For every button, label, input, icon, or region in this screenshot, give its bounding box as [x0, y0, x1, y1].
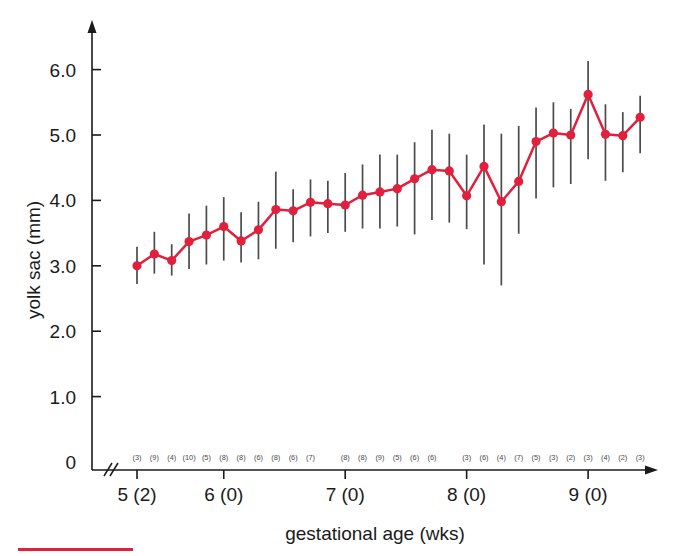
- data-point-marker: [358, 191, 367, 200]
- sample-size-labels-group: (3)(9)(4)(10)(5)(8)(8)(6)(8)(6)(7)(8)(8)…: [132, 453, 644, 462]
- sample-size-label: (7): [306, 453, 315, 462]
- sample-size-label: (2): [618, 453, 627, 462]
- sample-size-label: (9): [375, 453, 384, 462]
- errorbars-group: [137, 61, 640, 285]
- data-point-marker: [618, 131, 627, 140]
- y-tick-label: 5.0: [50, 125, 76, 146]
- data-point-marker: [375, 187, 384, 196]
- data-point-marker: [584, 90, 593, 99]
- sample-size-label: (5): [393, 453, 402, 462]
- sample-size-label: (6): [410, 453, 419, 462]
- x-tick-label: 6 (0): [204, 484, 243, 505]
- sample-size-label: (3): [584, 453, 593, 462]
- x-axis-title: gestational age (wks): [285, 523, 465, 544]
- data-point-marker: [531, 137, 540, 146]
- sample-size-label: (5): [202, 453, 211, 462]
- data-point-marker: [202, 230, 211, 239]
- sample-size-label: (2): [566, 453, 575, 462]
- sample-size-label: (7): [514, 453, 523, 462]
- y-axis-arrow: [88, 20, 97, 33]
- y-tick-label: 6.0: [50, 60, 76, 81]
- data-point-marker: [427, 165, 436, 174]
- data-point-marker: [445, 166, 454, 175]
- sample-size-label: (3): [462, 453, 471, 462]
- data-markers-group: [132, 90, 644, 271]
- sample-size-label: (8): [271, 453, 280, 462]
- data-point-marker: [462, 191, 471, 200]
- sample-size-label: (4): [601, 453, 610, 462]
- data-point-marker: [289, 206, 298, 215]
- data-point-marker: [132, 261, 141, 270]
- sample-size-label: (9): [150, 453, 159, 462]
- data-point-marker: [237, 236, 246, 245]
- sample-size-label: (6): [427, 453, 436, 462]
- data-point-marker: [150, 249, 159, 258]
- yolk-sac-growth-figure: (3)(9)(4)(10)(5)(8)(8)(6)(8)(6)(7)(8)(8)…: [0, 0, 690, 556]
- sample-size-label: (6): [254, 453, 263, 462]
- data-point-marker: [271, 205, 280, 214]
- data-point-marker: [549, 128, 558, 137]
- x-tick-label: 7 (0): [326, 484, 365, 505]
- x-tick-label: 9 (0): [569, 484, 608, 505]
- y-tick-label: 2.0: [50, 321, 76, 342]
- data-point-marker: [306, 198, 315, 207]
- data-point-marker: [601, 130, 610, 139]
- sample-size-label: (8): [358, 453, 367, 462]
- data-point-marker: [410, 174, 419, 183]
- data-point-marker: [323, 199, 332, 208]
- y-axis-title: yolk sac (mm): [23, 201, 44, 319]
- data-point-marker: [636, 113, 645, 122]
- data-point-marker: [393, 184, 402, 193]
- sample-size-label: (8): [341, 453, 350, 462]
- y-tick-label: 0: [65, 452, 76, 473]
- sample-size-label: (3): [549, 453, 558, 462]
- sample-size-label: (5): [532, 453, 541, 462]
- sample-size-label: (6): [289, 453, 298, 462]
- sample-size-label: (4): [167, 453, 176, 462]
- caption-rule: [18, 548, 133, 551]
- series-line: [137, 94, 640, 265]
- y-tick-label: 3.0: [50, 256, 76, 277]
- x-axis-arrow: [645, 466, 658, 475]
- sample-size-label: (8): [219, 453, 228, 462]
- data-point-marker: [167, 256, 176, 265]
- y-tick-label: 1.0: [50, 387, 76, 408]
- data-point-marker: [254, 225, 263, 234]
- sample-size-label: (8): [237, 453, 246, 462]
- sample-size-label: (6): [479, 453, 488, 462]
- axis-labels-group: 01.02.03.04.05.06.05 (2)6 (0)7 (0)8 (0)9…: [23, 60, 608, 544]
- series-line-group: [137, 94, 640, 265]
- data-point-marker: [566, 130, 575, 139]
- sample-size-label: (4): [497, 453, 506, 462]
- x-tick-label: 5 (2): [117, 484, 156, 505]
- axes-group: [88, 20, 659, 479]
- data-point-marker: [219, 222, 228, 231]
- x-tick-label: 8 (0): [447, 484, 486, 505]
- sample-size-label: (3): [132, 453, 141, 462]
- sample-size-label: (10): [182, 453, 195, 462]
- y-tick-label: 4.0: [50, 190, 76, 211]
- data-point-marker: [341, 200, 350, 209]
- data-point-marker: [497, 197, 506, 206]
- chart-canvas: (3)(9)(4)(10)(5)(8)(8)(6)(8)(6)(7)(8)(8)…: [0, 0, 690, 556]
- data-point-marker: [184, 237, 193, 246]
- data-point-marker: [514, 177, 523, 186]
- data-point-marker: [479, 162, 488, 171]
- sample-size-label: (3): [636, 453, 645, 462]
